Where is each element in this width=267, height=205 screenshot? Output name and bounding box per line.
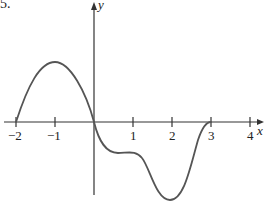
tick-label-neg2: −2 [8,128,22,144]
graph-plot [0,0,267,205]
tick-label-4: 4 [247,128,254,144]
function-curve [16,62,211,200]
problem-number: 5. [0,0,11,12]
tick-label-2: 2 [169,128,176,144]
tick-label-neg1: −1 [47,128,61,144]
y-axis-arrow-icon [91,2,97,10]
tick-label-3: 3 [208,128,215,144]
y-axis-label: y [98,0,104,13]
x-axis-label: x [257,123,263,139]
tick-label-1: 1 [130,128,137,144]
